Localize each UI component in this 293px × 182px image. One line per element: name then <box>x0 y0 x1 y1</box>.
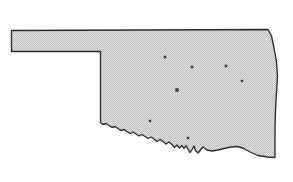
city-marker-5 <box>149 120 151 122</box>
city-marker-1 <box>164 56 167 59</box>
oklahoma-map-canvas <box>0 0 293 182</box>
oklahoma-state-outline <box>12 30 278 158</box>
city-marker-6 <box>187 137 189 139</box>
city-marker-2 <box>191 66 194 69</box>
city-marker-capital <box>175 88 178 91</box>
city-marker-3 <box>225 65 228 68</box>
city-marker-4 <box>241 80 243 82</box>
state-map-figure <box>0 0 293 182</box>
